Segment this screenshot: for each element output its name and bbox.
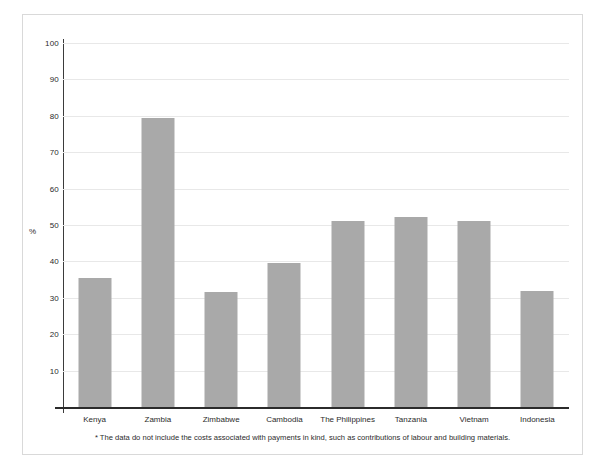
- y-axis-tick-label: 70: [25, 148, 59, 157]
- y-axis-tick-label: 40: [25, 257, 59, 266]
- x-axis-label-kenya: Kenya: [63, 415, 126, 424]
- x-axis-label-the-philippines: The Philippines: [316, 415, 379, 424]
- x-axis-labels: KenyaZambiaZimbabweCambodiaThe Philippin…: [63, 15, 569, 454]
- y-axis-tick-label: 10: [25, 366, 59, 375]
- y-axis-tick-label: 60: [25, 184, 59, 193]
- chart-footnote: * The data do not include the costs asso…: [23, 433, 582, 442]
- x-axis-label-zimbabwe: Zimbabwe: [190, 415, 253, 424]
- chart-figure: % 100908070605040302010 KenyaZambiaZimba…: [22, 14, 583, 455]
- x-axis-label-tanzania: Tanzania: [379, 415, 442, 424]
- y-axis-tick-label: 90: [25, 75, 59, 84]
- y-axis-tick-label: 30: [25, 293, 59, 302]
- y-axis-tick-label: 80: [25, 111, 59, 120]
- y-axis-tick-label: 50: [25, 221, 59, 230]
- y-axis-tick-label: 100: [25, 39, 59, 48]
- x-axis-label-vietnam: Vietnam: [443, 415, 506, 424]
- y-axis-tick-label: 20: [25, 330, 59, 339]
- x-axis-label-cambodia: Cambodia: [253, 415, 316, 424]
- x-axis-label-indonesia: Indonesia: [506, 415, 569, 424]
- y-axis-ticks: 100908070605040302010: [23, 43, 59, 407]
- x-axis-label-zambia: Zambia: [126, 415, 189, 424]
